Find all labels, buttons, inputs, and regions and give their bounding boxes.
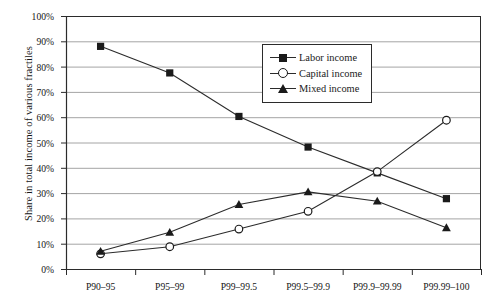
filled-triangle-marker-icon xyxy=(304,187,313,195)
legend-item-capital-income: Capital income xyxy=(270,66,362,82)
data-point xyxy=(166,243,174,251)
x-axis-tick-label: P95–99 xyxy=(155,281,184,292)
open-circle-marker-icon xyxy=(304,208,312,216)
series-line xyxy=(101,192,447,251)
data-point xyxy=(373,168,381,176)
filled-triangle-marker-icon xyxy=(270,82,296,95)
x-axis-tick-label: P99.5–99.9 xyxy=(286,281,330,292)
filled-triangle-marker-icon xyxy=(165,228,174,236)
data-point xyxy=(304,187,313,195)
open-circle-marker-icon xyxy=(166,243,174,251)
legend-label-capital-income: Capital income xyxy=(296,66,362,82)
filled-square-marker-icon xyxy=(270,51,296,64)
filled-square-marker-icon xyxy=(97,43,104,50)
data-point xyxy=(443,116,451,124)
filled-square-marker-icon xyxy=(235,113,242,120)
plot-area xyxy=(0,0,494,306)
x-axis-tick-label: P99.9–99.99 xyxy=(353,281,402,292)
chart-figure: Share in total income of various fractil… xyxy=(0,0,494,306)
data-point xyxy=(442,223,451,231)
x-axis-tick-label: P99.99–100 xyxy=(423,281,469,292)
legend-item-labor-income: Labor income xyxy=(270,50,362,66)
chart-legend: Labor income Capital income Mixed income xyxy=(262,44,372,103)
data-point xyxy=(304,208,312,216)
filled-triangle-marker-icon xyxy=(442,223,451,231)
open-circle-marker-icon xyxy=(270,67,296,80)
data-point xyxy=(235,113,242,120)
data-point xyxy=(304,143,311,150)
legend-label-mixed-income: Mixed income xyxy=(296,81,359,97)
data-point xyxy=(166,69,173,76)
data-point xyxy=(235,225,243,233)
x-axis-tick-label: P90–95 xyxy=(86,281,115,292)
open-circle-marker-icon xyxy=(235,225,243,233)
data-point xyxy=(443,195,450,202)
series-line xyxy=(101,120,447,254)
filled-square-marker-icon xyxy=(443,195,450,202)
legend-label-labor-income: Labor income xyxy=(296,50,357,66)
filled-square-marker-icon xyxy=(166,69,173,76)
legend-item-mixed-income: Mixed income xyxy=(270,81,362,97)
data-point xyxy=(165,228,174,236)
filled-square-marker-icon xyxy=(304,143,311,150)
open-circle-marker-icon xyxy=(443,116,451,124)
data-point xyxy=(97,43,104,50)
x-axis-tick-label: P99–99.5 xyxy=(221,281,258,292)
open-circle-marker-icon xyxy=(373,168,381,176)
